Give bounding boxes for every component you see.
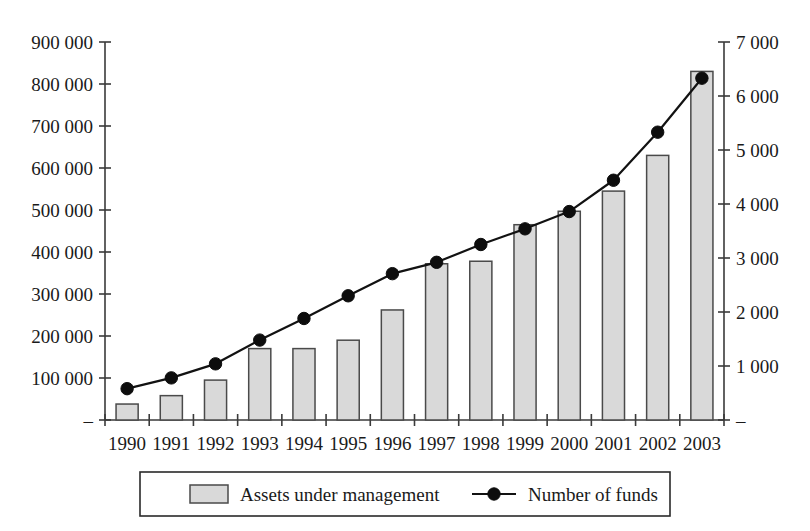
- bar-1999: [514, 225, 536, 420]
- line-marker-1998: [475, 238, 487, 250]
- x-axis-tick-label: 2000: [550, 433, 588, 454]
- right-axis-tick-label: 7 000: [736, 32, 779, 53]
- left-axis-tick-label: 400 000: [31, 242, 93, 263]
- bar-1997: [426, 264, 448, 420]
- line-marker-2003: [696, 72, 708, 84]
- x-axis-tick-label: 1990: [108, 433, 146, 454]
- bar-1994: [293, 349, 315, 420]
- bar-2000: [558, 211, 580, 420]
- x-axis-tick-label: 1999: [506, 433, 544, 454]
- right-axis-tick-label: 5 000: [736, 140, 779, 161]
- right-axis-tick-label: 1 000: [736, 356, 779, 377]
- legend-marker-funds: [488, 488, 500, 500]
- line-marker-1995: [342, 290, 354, 302]
- bar-1990: [116, 404, 138, 420]
- legend-label-funds: Number of funds: [528, 484, 658, 505]
- left-axis-tick-label: 200 000: [31, 326, 93, 347]
- chart-container: –100 000200 000300 000400 000500 000600 …: [0, 0, 810, 531]
- left-axis-tick-label: 100 000: [31, 368, 93, 389]
- left-axis-tick-label: 900 000: [31, 32, 93, 53]
- left-axis: –100 000200 000300 000400 000500 000600 …: [31, 32, 111, 431]
- left-axis-tick-label: 300 000: [31, 284, 93, 305]
- left-axis-tick-label: –: [83, 410, 94, 431]
- line-marker-1991: [165, 372, 177, 384]
- line-marker-2001: [607, 174, 619, 186]
- bar-1991: [160, 396, 182, 420]
- line-marker-1994: [298, 312, 310, 324]
- left-axis-tick-label: 600 000: [31, 158, 93, 179]
- legend-label-assets: Assets under management: [240, 484, 440, 505]
- right-axis-tick-label: –: [735, 410, 746, 431]
- line-marker-1996: [386, 267, 398, 279]
- line-marker-2000: [563, 205, 575, 217]
- x-axis: 1990199119921993199419951996199719981999…: [105, 414, 724, 454]
- line-marker-2002: [651, 126, 663, 138]
- chart-legend: Assets under managementNumber of funds: [140, 472, 670, 516]
- left-axis-tick-label: 500 000: [31, 200, 93, 221]
- left-axis-tick-label: 800 000: [31, 74, 93, 95]
- line-marker-1990: [121, 382, 133, 394]
- x-axis-tick-label: 1994: [285, 433, 324, 454]
- bar-1998: [470, 261, 492, 420]
- bar-2002: [647, 155, 669, 420]
- right-axis-tick-label: 4 000: [736, 194, 779, 215]
- right-axis: –1 0002 0003 0004 0005 0006 0007 000: [718, 32, 779, 431]
- right-axis-tick-label: 3 000: [736, 248, 779, 269]
- right-axis-tick-label: 2 000: [736, 302, 779, 323]
- x-axis-tick-label: 1991: [152, 433, 190, 454]
- x-axis-tick-label: 1993: [241, 433, 279, 454]
- bar-1995: [337, 340, 359, 420]
- left-axis-tick-label: 700 000: [31, 116, 93, 137]
- bar-1992: [204, 380, 226, 420]
- bar-1996: [381, 310, 403, 420]
- combo-chart: –100 000200 000300 000400 000500 000600 …: [0, 0, 810, 531]
- x-axis-tick-label: 1995: [329, 433, 367, 454]
- x-axis-tick-label: 2001: [594, 433, 632, 454]
- bar-1993: [249, 349, 271, 420]
- x-axis-tick-label: 1998: [462, 433, 500, 454]
- line-marker-1997: [430, 256, 442, 268]
- x-axis-tick-label: 2003: [683, 433, 721, 454]
- x-axis-tick-label: 1992: [197, 433, 235, 454]
- line-marker-1992: [209, 358, 221, 370]
- bar-2003: [691, 71, 713, 420]
- legend-swatch-assets: [190, 485, 228, 503]
- x-axis-tick-label: 1997: [418, 433, 456, 454]
- line-marker-1993: [254, 334, 266, 346]
- x-axis-tick-label: 1996: [373, 433, 411, 454]
- x-axis-tick-label: 2002: [639, 433, 677, 454]
- line-marker-1999: [519, 223, 531, 235]
- bar-2001: [602, 191, 624, 420]
- right-axis-tick-label: 6 000: [736, 86, 779, 107]
